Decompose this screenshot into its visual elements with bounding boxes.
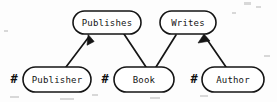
key-marker-author: # [190,72,198,86]
key-marker-publisher: # [10,72,18,86]
node-writes-label: Writes [171,18,205,28]
key-marker-book: # [101,72,109,86]
node-publisher-label: Publisher [32,75,83,85]
er-diagram: Publishes Writes # Publisher # Book # Au… [0,0,277,102]
node-author-label: Author [216,75,250,85]
node-book-label: Book [133,75,156,85]
edge-line-publisher-publishes [66,38,88,67]
edge-line-author-writes [206,38,226,67]
node-publishes[interactable]: Publishes [73,11,141,34]
edge-line-book-writes [156,35,176,67]
edge-book-writes [156,35,176,67]
node-writes[interactable]: Writes [160,11,216,34]
edge-line-publishes-book [124,34,146,67]
node-publishes-label: Publishes [82,18,133,28]
edges-layer [66,34,226,67]
node-book[interactable]: # Book [101,67,174,92]
edge-author-writes [198,34,226,67]
edge-publishes-book [124,34,146,67]
edge-publisher-publishes [66,34,94,67]
node-author[interactable]: # Author [190,67,264,92]
node-publisher[interactable]: # Publisher [10,67,91,92]
diagram-canvas: Publishes Writes # Publisher # Book # Au… [0,0,277,102]
